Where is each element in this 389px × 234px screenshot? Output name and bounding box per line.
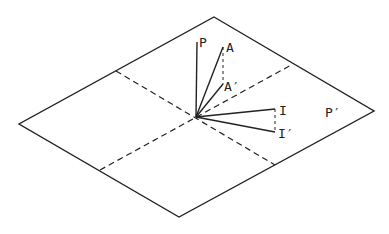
label-plane: P′	[325, 105, 341, 120]
label-p: P	[199, 35, 207, 50]
vector-a	[196, 47, 223, 117]
vector-i-prime	[196, 117, 275, 132]
label-a-prime: A′	[224, 79, 240, 94]
axis-dashed-1	[116, 71, 275, 165]
label-a: A	[226, 40, 234, 55]
vector-p	[196, 42, 197, 117]
label-i-prime: I′	[278, 126, 294, 141]
label-i: I	[279, 103, 287, 118]
vector-a-prime	[196, 84, 223, 117]
vector-projection-diagram: P A A′ I I′ P′	[0, 0, 389, 234]
